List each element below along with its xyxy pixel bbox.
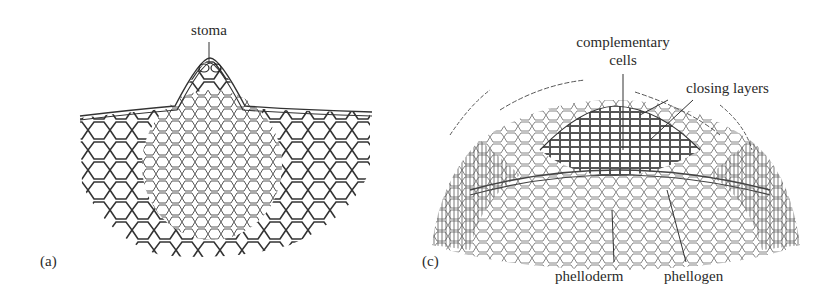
complementary-cells-label-line1: complementary bbox=[565, 34, 681, 50]
stoma-label: stoma bbox=[184, 22, 234, 38]
figure-canvas bbox=[0, 0, 826, 304]
phellogen-label: phellogen bbox=[664, 268, 723, 284]
complementary-cells-label-line2: cells bbox=[565, 52, 681, 68]
panel-c-letter: (c) bbox=[422, 253, 439, 269]
phelloderm-label: phelloderm bbox=[555, 268, 623, 284]
panel-a-stoma-section bbox=[60, 40, 380, 270]
panel-a-letter: (a) bbox=[40, 253, 57, 269]
panel-c-lenticel-section bbox=[430, 74, 805, 275]
closing-layers-label: closing layers bbox=[686, 80, 769, 96]
